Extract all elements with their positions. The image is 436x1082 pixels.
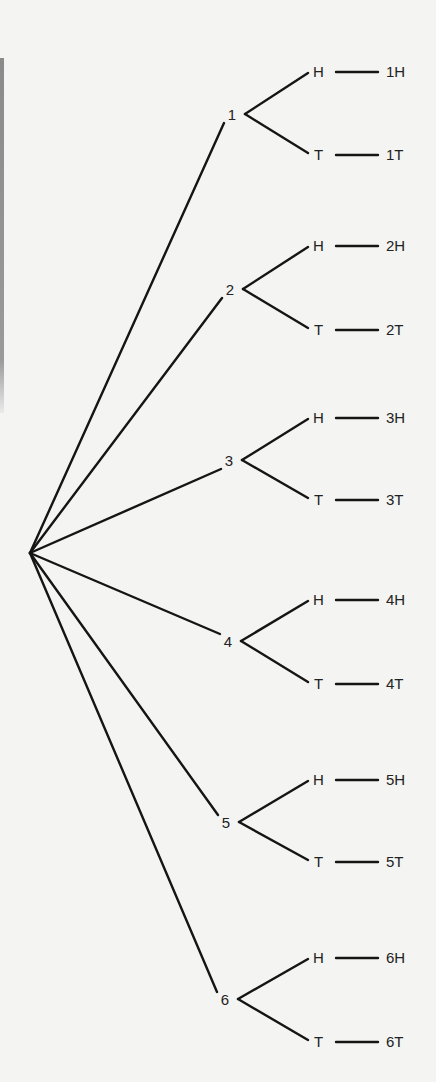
heads-branch-3	[242, 419, 308, 460]
tails-label-4: T	[314, 675, 323, 692]
tails-branch-1	[245, 114, 308, 153]
outcome-5T: 5T	[386, 853, 404, 870]
heads-branch-1	[245, 73, 308, 114]
heads-branch-6	[238, 959, 308, 999]
tails-label-5: T	[314, 853, 323, 870]
outcome-2H: 2H	[386, 237, 405, 254]
die-node-2: 2	[226, 281, 234, 298]
root-branch-1	[30, 123, 224, 553]
outcome-6H: 6H	[386, 949, 405, 966]
outcome-3T: 3T	[386, 491, 404, 508]
heads-label-6: H	[313, 949, 324, 966]
tails-branch-3	[242, 460, 308, 498]
heads-label-2: H	[313, 237, 324, 254]
heads-branch-5	[239, 781, 308, 822]
die-node-4: 4	[224, 633, 232, 650]
die-node-3: 3	[225, 452, 233, 469]
die-node-6: 6	[221, 991, 229, 1008]
heads-branch-4	[241, 601, 308, 641]
tails-branch-5	[239, 822, 308, 860]
tails-label-1: T	[314, 146, 323, 163]
tails-branch-2	[243, 289, 308, 328]
tails-label-6: T	[314, 1033, 323, 1050]
heads-label-4: H	[313, 591, 324, 608]
tails-branch-4	[241, 641, 308, 682]
heads-label-5: H	[313, 771, 324, 788]
outcome-3H: 3H	[386, 409, 405, 426]
outcome-1T: 1T	[386, 146, 404, 163]
die-node-1: 1	[228, 106, 236, 123]
heads-label-1: H	[313, 63, 324, 80]
tree-diagram: 1HT1H1T2HT2H2T3HT3H3T4HT4H4T5HT5H5T6HT6H…	[0, 0, 436, 1082]
tails-label-2: T	[314, 321, 323, 338]
outcome-5H: 5H	[386, 771, 405, 788]
outcome-1H: 1H	[386, 63, 405, 80]
outcome-6T: 6T	[386, 1033, 404, 1050]
die-node-5: 5	[222, 814, 230, 831]
outcome-2T: 2T	[386, 321, 404, 338]
heads-branch-2	[243, 247, 308, 289]
outcome-4T: 4T	[386, 675, 404, 692]
root-branch-2	[30, 298, 222, 553]
tails-label-3: T	[314, 491, 323, 508]
root-branch-3	[30, 469, 221, 553]
outcome-4H: 4H	[386, 591, 405, 608]
heads-label-3: H	[313, 409, 324, 426]
tails-branch-6	[238, 999, 308, 1040]
